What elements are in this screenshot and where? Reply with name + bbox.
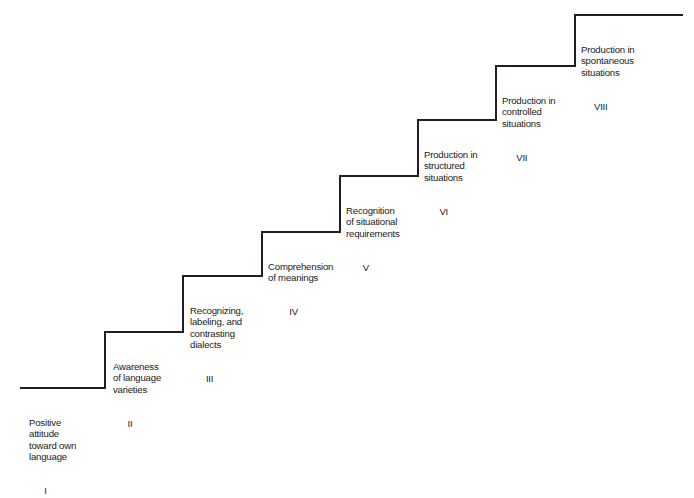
step-text-3: Recognizing, labeling, and contrasting d… <box>190 305 243 351</box>
step-numeral-2: II <box>113 418 161 429</box>
step-numeral-4: IV <box>268 306 333 317</box>
step-text-5: Recognition of situational requirements <box>346 205 400 239</box>
step-text-7: Production in controlled situations <box>502 95 556 129</box>
step-numeral-7: VII <box>502 152 556 163</box>
step-numeral-1: I <box>29 485 76 496</box>
step-text-1: Positive attitude toward own language <box>29 417 76 463</box>
step-numeral-8: VIII <box>581 101 635 112</box>
step-label-6: Production in structured situations VI <box>424 126 478 240</box>
step-label-7: Production in controlled situations VII <box>502 72 556 186</box>
step-label-3: Recognizing, labeling, and contrasting d… <box>190 282 243 407</box>
step-text-8: Production in spontaneous situations <box>581 44 635 78</box>
step-text-2: Awareness of language varieties <box>113 361 161 395</box>
step-label-4: Comprehension of meanings IV <box>268 238 333 341</box>
step-label-1: Positive attitude toward own language I <box>29 394 76 498</box>
step-label-5: Recognition of situational requirements … <box>346 182 400 296</box>
step-text-4: Comprehension of meanings <box>268 261 333 284</box>
step-numeral-6: VI <box>424 206 478 217</box>
step-label-2: Awareness of language varieties II <box>113 338 161 452</box>
step-numeral-3: III <box>190 373 243 384</box>
step-label-8: Production in spontaneous situations VII… <box>581 21 635 135</box>
step-text-6: Production in structured situations <box>424 149 478 183</box>
step-numeral-5: V <box>346 262 400 273</box>
